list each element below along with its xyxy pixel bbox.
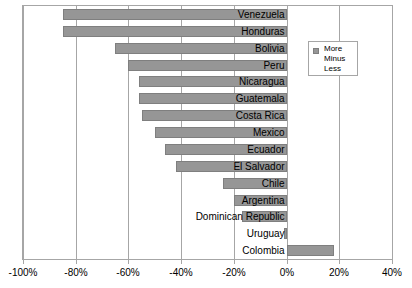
category-label-uruguay: Uruguay [247, 226, 287, 241]
bar-row: Colombia [23, 242, 392, 259]
x-axis: -100%-80%-60%-40%-20%0%20%40% [0, 260, 412, 288]
category-label-colombia: Colombia [242, 243, 286, 258]
bar-row: Guatemala [23, 90, 392, 107]
legend-swatch-icon [313, 48, 319, 54]
bar-row: Costa Rica [23, 107, 392, 124]
category-label-mexico: Mexico [253, 125, 287, 140]
x-tick-mark [23, 260, 24, 264]
category-label-bolivia: Bolivia [255, 41, 286, 56]
x-tick-label: 40% [382, 267, 402, 278]
bar-row: Venezuela [23, 6, 392, 23]
x-tick-mark [76, 260, 77, 264]
chart-legend: More Minus Less [308, 41, 358, 76]
bar-row: Ecuador [23, 141, 392, 158]
gridline-40pct [392, 6, 393, 259]
bar-colombia [287, 245, 334, 256]
legend-label-line-2: Minus [312, 54, 354, 64]
category-label-argentina: Argentina [242, 193, 287, 208]
x-tick-label: -40% [169, 267, 192, 278]
x-tick-label: 20% [329, 267, 349, 278]
bar-row: Uruguay [23, 225, 392, 242]
x-tick-mark [128, 260, 129, 264]
category-label-el-salvador: El Salvador [233, 159, 286, 174]
category-label-peru: Peru [263, 58, 286, 73]
category-label-costa-rica: Costa Rica [236, 108, 287, 123]
x-tick-mark [234, 260, 235, 264]
category-label-nicaragua: Nicaragua [239, 74, 287, 89]
legend-label-line-3: Less [312, 64, 354, 74]
x-tick-label: -20% [222, 267, 245, 278]
x-tick-label: -100% [9, 267, 38, 278]
x-tick-mark [392, 260, 393, 264]
x-tick-mark [339, 260, 340, 264]
bar-row: El Salvador [23, 158, 392, 175]
category-label-guatemala: Guatemala [236, 91, 287, 106]
x-tick-label: 0% [280, 267, 294, 278]
x-tick-mark [287, 260, 288, 264]
category-label-dominican-republic: Dominican Republic [196, 209, 287, 224]
category-label-venezuela: Venezuela [238, 7, 287, 22]
bar-chart: VenezuelaHondurasBoliviaPeruNicaraguaGua… [0, 0, 412, 288]
bar-row: Mexico [23, 124, 392, 141]
category-label-honduras: Honduras [241, 24, 286, 39]
bar-row: Chile [23, 175, 392, 192]
x-tick-label: -80% [64, 267, 87, 278]
bar-row: Argentina [23, 192, 392, 209]
category-label-chile: Chile [262, 176, 287, 191]
x-tick-mark [181, 260, 182, 264]
bar-row: Dominican Republic [23, 208, 392, 225]
category-label-ecuador: Ecuador [247, 142, 286, 157]
x-tick-label: -60% [116, 267, 139, 278]
bar-row: Honduras [23, 23, 392, 40]
